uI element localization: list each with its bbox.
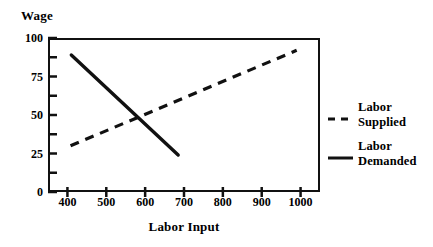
legend-label: LaborDemanded [358, 139, 432, 169]
chart-legend: LaborSuppliedLaborDemanded [328, 100, 432, 178]
y-tick-label: 100 [0, 32, 43, 44]
y-tick-label: 50 [0, 109, 43, 121]
legend-label-line1: Labor [358, 139, 432, 154]
series-line-labor-supplied [71, 50, 297, 145]
plot-area [48, 38, 320, 192]
y-tick-label: 75 [0, 71, 43, 83]
solid-line-icon [328, 146, 353, 150]
x-tick-label: 1000 [277, 196, 325, 208]
y-tick-label: 0 [0, 186, 43, 198]
dashed-line-icon [328, 107, 353, 111]
y-tick-label: 25 [0, 148, 43, 160]
legend-label-line2: Supplied [358, 115, 432, 130]
legend-label-line1: Labor [358, 100, 432, 115]
legend-item: LaborDemanded [328, 139, 432, 169]
x-axis-title: Labor Input [48, 219, 320, 235]
legend-label-line2: Demanded [358, 154, 432, 169]
chart-figure: Wage 0255075100 4005006007008009001000 L… [0, 0, 433, 247]
legend-item: LaborSupplied [328, 100, 432, 130]
y-axis-title: Wage [21, 8, 53, 24]
legend-label: LaborSupplied [358, 100, 432, 130]
